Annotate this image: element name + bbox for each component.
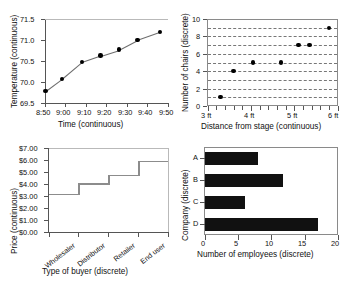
y-tick (200, 202, 205, 203)
y-tick-label: 8 (196, 33, 200, 40)
y-tick-label: $2.00 (19, 205, 38, 212)
y-tick (44, 208, 49, 209)
x-tick (138, 232, 139, 237)
x-tick (268, 106, 269, 110)
right-spine (168, 148, 169, 232)
gridline (208, 28, 337, 29)
x-tick-label: 5 ft (287, 112, 297, 119)
data-point (117, 47, 121, 51)
step-tread (138, 161, 168, 162)
y-tick-label: 69.5 (20, 100, 34, 107)
x-tick-label: 9:20 (97, 109, 111, 116)
data-point (158, 30, 162, 34)
y-tick (200, 158, 205, 159)
y-tick-label: 6 (196, 51, 200, 58)
y-tick-label: A (193, 154, 198, 161)
gridline (208, 89, 337, 90)
y-tick (44, 172, 49, 173)
x-tick (260, 106, 261, 110)
x-axis-title: Number of employees (discrete) (197, 251, 314, 259)
x-tick (108, 232, 109, 237)
top-spine (48, 148, 168, 149)
x-tick (86, 103, 87, 107)
x-tick (234, 106, 235, 110)
data-point (43, 89, 47, 93)
x-tick (49, 232, 50, 237)
y-tick (203, 89, 207, 90)
x-tick (127, 103, 128, 107)
y-tick-label: D (193, 220, 198, 227)
y-tick-label: 0 (196, 103, 200, 110)
y-tick-label: 10 (192, 16, 200, 23)
figure-grid: Temperature (continuous) 71.5 71.0 70.5 … (0, 0, 344, 282)
data-point (327, 26, 331, 30)
step-tread (49, 194, 79, 195)
y-tick (44, 184, 49, 185)
y-tick (41, 61, 45, 62)
x-axis-title: Type of buyer (discrete) (42, 268, 128, 276)
y-tick (200, 224, 205, 225)
line-segment (119, 40, 138, 51)
y-tick-label: 4 (196, 68, 200, 75)
x-tick (320, 106, 321, 110)
x-tick-label: 8:50 (36, 109, 50, 116)
y-tick-label: $3.00 (19, 193, 38, 200)
panel-employees-bar: Company (discrete) A B C D 0 5 10 15 20 … (172, 141, 344, 282)
bar (205, 218, 318, 231)
gridline (208, 97, 337, 98)
x-tick-label: 9:00 (56, 109, 70, 116)
gridline (208, 63, 337, 64)
y-tick-label: $7.00 (19, 145, 38, 152)
y-tick (203, 106, 207, 107)
data-point (135, 38, 139, 42)
line-segment (137, 32, 160, 41)
x-tick (45, 103, 46, 107)
y-tick-label: 70.0 (20, 79, 34, 86)
data-point (60, 77, 64, 81)
gridline (208, 45, 337, 46)
data-point (296, 43, 300, 47)
y-tick (203, 54, 207, 55)
panel-price-step: Price (continuous) $7.00 $6.00 $5.00 $4.… (0, 141, 172, 282)
step-tread (108, 175, 138, 176)
y-axis-title: Price (continuous) (11, 188, 19, 254)
y-tick-label: C (193, 198, 198, 205)
x-tick (286, 106, 287, 110)
x-tick (78, 232, 79, 237)
step-tread (78, 183, 108, 184)
x-tick-label: 5 (234, 240, 238, 247)
y-tick-label: 71.0 (20, 37, 34, 44)
x-tick (106, 103, 107, 107)
x-tick (312, 106, 313, 110)
x-tick (303, 106, 304, 110)
x-tick (168, 103, 169, 107)
y-tick-label: B (193, 176, 198, 183)
top-spine (45, 19, 168, 20)
y-tick (41, 82, 45, 83)
x-tick-label: 20 (331, 240, 339, 247)
data-point (279, 60, 283, 64)
data-point (231, 69, 235, 73)
data-point (307, 43, 311, 47)
x-tick-label: 15 (298, 240, 306, 247)
y-axis-title: Company (discrete) (182, 170, 190, 241)
x-tick (277, 106, 278, 110)
y-tick-label: 71.5 (20, 16, 34, 23)
y-tick (41, 19, 45, 20)
gridline (208, 36, 337, 37)
x-tick (329, 106, 330, 110)
x-tick-label: 0 (201, 240, 205, 247)
data-point (251, 60, 255, 64)
x-tick-label: 4 ft (244, 112, 254, 119)
y-tick (44, 160, 49, 161)
y-tick-label: $5.00 (19, 169, 38, 176)
y-tick (203, 19, 207, 20)
gridline (208, 71, 337, 72)
y-tick-label: $6.00 (19, 157, 38, 164)
x-tick (65, 103, 66, 107)
bar (205, 196, 245, 209)
panel-temperature-line: Temperature (continuous) 71.5 71.0 70.5 … (0, 0, 172, 141)
x-tick-label: 6 ft (328, 112, 338, 119)
y-tick (203, 71, 207, 72)
line-segment (45, 79, 62, 92)
